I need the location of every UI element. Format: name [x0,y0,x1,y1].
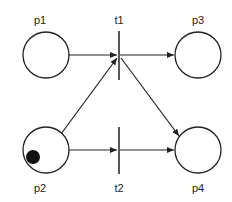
label-p4: p4 [192,182,204,194]
label-t2: t2 [114,182,123,194]
arc-p2-t1 [61,58,117,134]
place-p3[interactable] [175,32,221,78]
label-p1: p1 [34,14,46,26]
place-p4[interactable] [175,127,221,173]
arc-t1-p4 [121,58,179,136]
place-p2[interactable] [23,127,69,173]
place-p1[interactable] [23,32,69,78]
label-t1: t1 [114,14,123,26]
token-p2 [26,150,40,164]
label-p3: p3 [192,14,204,26]
label-p2: p2 [34,182,46,194]
petri-net-diagram: p1 t1 p3 p2 t2 p4 [0,0,232,202]
